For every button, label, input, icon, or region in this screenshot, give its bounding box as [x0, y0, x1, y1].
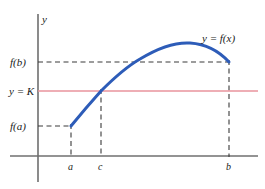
- curve-label: y = f(x): [201, 32, 235, 45]
- label-y-equals-k: y = K: [8, 85, 35, 97]
- label-f-of-a: f(a): [10, 120, 26, 133]
- intermediate-value-theorem-figure: y y = f(x) f(b) y = K f(a) a c b: [0, 0, 265, 189]
- x-tick-label-c: c: [98, 161, 103, 172]
- x-tick-label-b: b: [226, 161, 231, 172]
- function-curve: [71, 43, 229, 126]
- y-axis-label: y: [41, 13, 47, 25]
- label-f-of-b: f(b): [10, 56, 26, 69]
- x-tick-label-a: a: [68, 161, 73, 172]
